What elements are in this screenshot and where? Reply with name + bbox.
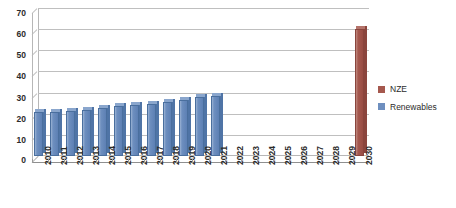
- x-tick-mark: [32, 159, 33, 163]
- legend-label: NZE: [390, 85, 407, 94]
- legend-label: Renewables: [390, 103, 437, 112]
- chart-legend: NZERenewables: [378, 85, 454, 120]
- x-tick-mark: [225, 159, 226, 163]
- x-tick-mark: [273, 159, 274, 163]
- y-tick-label: 50: [17, 51, 26, 60]
- legend-item-renewables[interactable]: Renewables: [378, 103, 454, 112]
- x-tick-mark: [289, 159, 290, 163]
- x-tick-mark: [80, 159, 81, 163]
- y-tick-label: 40: [17, 72, 26, 81]
- bar-nze-2030[interactable]: [355, 29, 364, 156]
- bar-renewables-2010[interactable]: [34, 112, 43, 156]
- bar-side-face: [204, 94, 207, 153]
- x-tick-mark: [176, 159, 177, 163]
- y-tick-label: 70: [17, 9, 26, 18]
- bar-side-face: [220, 93, 223, 153]
- x-tick-mark: [96, 159, 97, 163]
- x-axis: 2010201120122013201420152016201720182019…: [32, 163, 369, 208]
- x-tick-mark: [64, 159, 65, 163]
- y-axis: 010203040506070: [0, 0, 30, 208]
- x-tick-mark: [160, 159, 161, 163]
- y-tick-label: 10: [17, 136, 26, 145]
- x-tick-mark: [128, 159, 129, 163]
- x-tick-mark: [321, 159, 322, 163]
- x-tick-mark: [192, 159, 193, 163]
- x-tick-mark: [305, 159, 306, 163]
- x-tick-mark: [337, 159, 338, 163]
- bar-front-face: [34, 112, 43, 156]
- x-tick-mark: [209, 159, 210, 163]
- legend-item-nze[interactable]: NZE: [378, 85, 454, 94]
- y-tick-label: 0: [21, 156, 26, 165]
- bars-layer: [32, 8, 369, 163]
- x-tick-mark: [241, 159, 242, 163]
- y-tick-label: 30: [17, 93, 26, 102]
- x-tick-mark: [353, 159, 354, 163]
- x-tick-label: 2030: [365, 146, 374, 165]
- y-tick-label: 20: [17, 114, 26, 123]
- bar-side-face: [172, 99, 175, 153]
- x-tick-mark: [144, 159, 145, 163]
- legend-swatch-icon: [378, 103, 385, 110]
- x-tick-mark: [112, 159, 113, 163]
- x-tick-mark: [257, 159, 258, 163]
- plot-area: [32, 8, 369, 163]
- x-tick-mark: [48, 159, 49, 163]
- legend-swatch-icon: [378, 86, 385, 93]
- y-tick-label: 60: [17, 30, 26, 39]
- chart-container: 010203040506070 201020112012201320142015…: [0, 0, 456, 208]
- bar-side-face: [364, 26, 367, 153]
- bar-front-face: [355, 29, 364, 156]
- bar-side-face: [188, 97, 191, 153]
